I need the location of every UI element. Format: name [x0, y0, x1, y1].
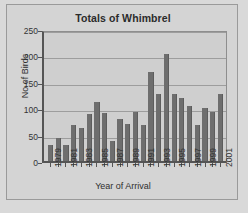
- x-tick-label: 1985: [100, 148, 110, 167]
- bar: [187, 106, 192, 161]
- plot-area: [42, 31, 227, 163]
- bar-series: [46, 32, 225, 161]
- x-tick-label: 1993: [162, 148, 172, 167]
- bar: [156, 94, 161, 161]
- chart-title: Totals of Whimbrel: [7, 12, 239, 24]
- bar: [63, 145, 68, 161]
- y-tick-label: 0: [10, 158, 38, 168]
- x-tick-label: 1981: [69, 148, 79, 167]
- y-tick-label: 100: [10, 105, 38, 115]
- bar: [172, 94, 177, 161]
- x-tick-label: 1997: [193, 148, 203, 167]
- x-tick-label: 1987: [115, 148, 125, 167]
- x-tick-label: 1999: [208, 148, 218, 167]
- bar: [125, 124, 130, 161]
- bar: [202, 108, 207, 161]
- chart-figure: Totals of Whimbrel No of Birds 050100150…: [6, 4, 238, 200]
- y-tick-label: 250: [10, 26, 38, 36]
- y-tick-label: 150: [10, 79, 38, 89]
- x-tick-label: 1983: [84, 148, 94, 167]
- x-tick-label: 1989: [131, 148, 141, 167]
- x-tick-label: 2001: [224, 148, 234, 167]
- bar: [94, 102, 99, 161]
- bar: [218, 94, 223, 161]
- x-tick-label: 1995: [177, 148, 187, 167]
- x-tick-label: 1979: [53, 148, 63, 167]
- bar: [164, 54, 169, 161]
- x-axis-title: Year of Arrival: [7, 181, 239, 191]
- y-tick-label: 50: [10, 132, 38, 142]
- y-tick-label: 200: [10, 52, 38, 62]
- x-tick-label: 1991: [146, 148, 156, 167]
